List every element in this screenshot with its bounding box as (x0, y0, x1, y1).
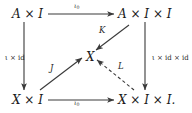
arrow-label-left: ι × id (5, 55, 25, 62)
node-top-left: A × I (12, 8, 43, 20)
node-center: X (86, 51, 95, 63)
arrow-label-k: K (99, 26, 105, 35)
node-bottom-right: X × I × I. (118, 94, 175, 106)
arrow-label-j: J (50, 64, 53, 73)
arrow-label-right: ι × id × id (152, 55, 189, 62)
node-bottom-left: X × I (12, 94, 43, 106)
arrow-diagonal-j (40, 58, 82, 90)
arrow-label-top: ι0 (74, 3, 80, 11)
node-top-right: A × I × I (118, 8, 172, 20)
commutative-diagram: A × I A × I × I X X × I X × I × I. ι0 ι0… (0, 0, 192, 113)
arrow-label-bottom-subscript: 0 (77, 102, 80, 107)
arrow-label-l: L (118, 62, 124, 71)
arrow-diagonal-l (97, 60, 134, 90)
arrow-label-top-subscript: 0 (77, 5, 80, 10)
arrow-label-bottom: ι0 (74, 100, 80, 108)
